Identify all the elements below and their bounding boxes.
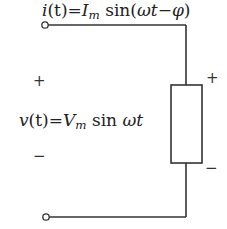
- sine-function: sin: [100, 0, 131, 20]
- terminal-top: [42, 22, 48, 28]
- resistor: [171, 85, 202, 163]
- paren-open: (: [130, 0, 137, 20]
- equals-sign: =: [68, 0, 82, 20]
- voltage-equation: v(t)=Vm sin ωt: [19, 112, 143, 129]
- load-plus-sign: +: [206, 71, 219, 86]
- time-symbol: t: [136, 110, 143, 130]
- voltage-amplitude: V: [63, 110, 75, 130]
- circuit-diagram: i(t)=Im sin(ωt−φ) v(t)=Vm sin ωt + − + −: [0, 0, 227, 229]
- current-arg: (t): [47, 0, 67, 20]
- voltage-arg: (t): [29, 110, 49, 130]
- equals-sign: =: [49, 110, 63, 130]
- terminal-bottom: [43, 214, 49, 220]
- time-symbol: t: [151, 0, 158, 20]
- voltage-symbol: v: [19, 110, 29, 130]
- omega-symbol: ω: [122, 110, 136, 130]
- source-minus-sign: −: [33, 149, 46, 164]
- load-minus-sign: −: [205, 161, 218, 176]
- paren-close: ): [184, 0, 191, 20]
- phase-symbol: φ: [172, 0, 184, 20]
- amplitude-subscript: m: [89, 8, 100, 22]
- amplitude-subscript: m: [75, 118, 86, 132]
- sine-function: sin: [87, 110, 123, 130]
- source-plus-sign: +: [33, 74, 46, 89]
- current-amplitude: I: [82, 0, 89, 20]
- minus-sign: −: [158, 0, 172, 20]
- current-equation: i(t)=Im sin(ωt−φ): [42, 2, 190, 19]
- omega-symbol: ω: [137, 0, 151, 20]
